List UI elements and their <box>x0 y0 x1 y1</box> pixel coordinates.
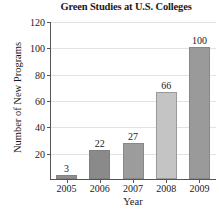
x-tick-label: 2007 <box>123 183 143 194</box>
bar <box>123 143 144 179</box>
chart-figure: Green Studies at U.S. Colleges Number of… <box>0 0 219 217</box>
y-tick-label: 120 <box>30 17 45 28</box>
bar-value-label: 27 <box>128 131 138 142</box>
y-tick-label: 20 <box>35 148 45 159</box>
y-tick-mark <box>47 127 51 128</box>
bar-value-label: 100 <box>192 35 207 46</box>
x-tick-label: 2005 <box>57 183 77 194</box>
y-tick-mark <box>47 48 51 49</box>
x-tick-label: 2009 <box>189 183 209 194</box>
x-tick-label: 2006 <box>90 183 110 194</box>
y-tick-label: 80 <box>35 69 45 80</box>
bar <box>189 47 210 179</box>
y-tick-mark <box>47 154 51 155</box>
bar <box>89 150 110 179</box>
chart-title: Green Studies at U.S. Colleges <box>36 1 216 12</box>
y-axis-title: Number of New Programs <box>12 23 23 173</box>
bar-value-label: 22 <box>95 138 105 149</box>
y-tick-mark <box>47 75 51 76</box>
x-tick-label: 2008 <box>156 183 176 194</box>
x-axis-title: Year <box>50 196 216 207</box>
gridline <box>51 22 216 23</box>
y-tick-mark <box>47 101 51 102</box>
y-tick-label: 40 <box>35 122 45 133</box>
y-tick-label: 100 <box>30 43 45 54</box>
bar <box>156 92 177 179</box>
y-tick-label: 60 <box>35 96 45 107</box>
y-tick-mark <box>47 22 51 23</box>
bar-value-label: 66 <box>161 80 171 91</box>
bar-value-label: 3 <box>64 163 69 174</box>
plot-area: 20406080100120 3222766100 20052006200720… <box>50 22 216 180</box>
